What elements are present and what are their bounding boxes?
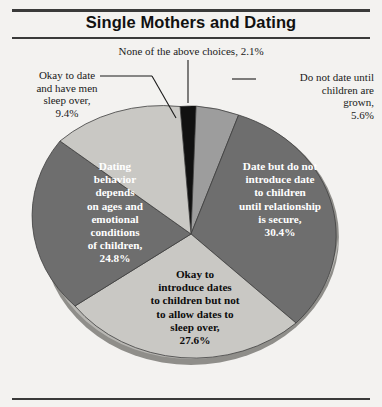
figure-rule-bottom	[12, 398, 370, 400]
callout-label-do-not-date: Do not date until children are grown, 5.…	[252, 71, 374, 121]
slice-label-introduce-no-sleepover: Okay to introduce dates to children but …	[124, 268, 266, 347]
pie-chart-figure: Single Mothers and Dating None of the ab…	[0, 0, 382, 407]
slice-label-depends-on-ages: Dating behavior depends on ages and emot…	[56, 160, 174, 266]
slice-label-date-but-not-introduce: Date but do not introduce date to childr…	[214, 160, 346, 239]
callout-label-sleep-over: Okay to date and have men sleep over, 9.…	[6, 69, 128, 119]
callout-label-none-of-the-above: None of the above choices, 2.1%	[86, 45, 296, 58]
